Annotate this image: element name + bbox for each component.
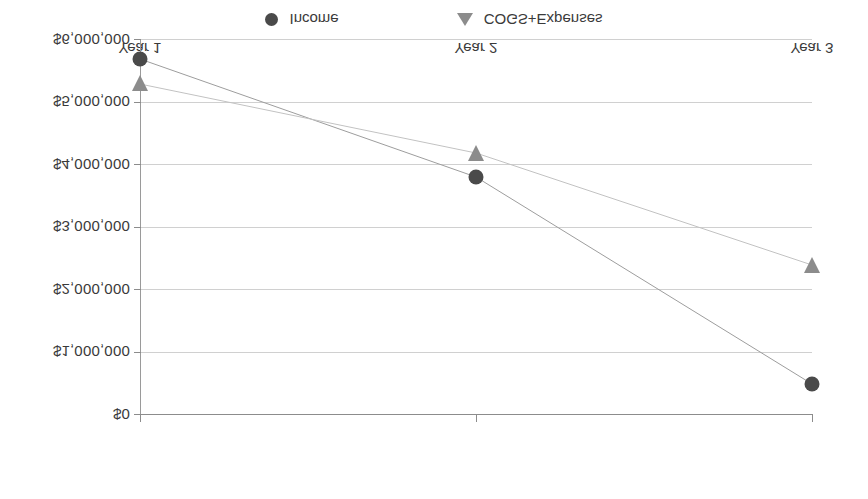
- y-axis-tick-label: $5,000,000: [10, 94, 130, 109]
- data-point-cogs-expenses-year2[interactable]: [468, 145, 484, 161]
- legend-triangle-marker-icon: [457, 13, 473, 26]
- y-axis-tick-label: $2,000,000: [10, 282, 130, 297]
- x-axis-tick: [812, 414, 813, 422]
- x-axis-tick: [476, 414, 477, 422]
- data-point-income-year2[interactable]: [469, 170, 484, 185]
- series-line-income: [140, 59, 812, 384]
- y-axis-tick-label: $1,000,000: [10, 344, 130, 359]
- plot-area: [140, 40, 812, 415]
- data-point-income-year1[interactable]: [133, 52, 148, 67]
- chart-legend: Income COGS+Expenses: [0, 12, 868, 27]
- data-point-income-year3[interactable]: [805, 377, 820, 392]
- legend-item-label: COGS+Expenses: [484, 12, 603, 27]
- legend-item-label: Income: [289, 12, 338, 27]
- line-chart-figure: $6,000,000 $5,000,000 $4,000,000 $3,000,…: [0, 0, 868, 499]
- x-axis-tick: [140, 414, 141, 422]
- y-axis-tick-label: $0: [10, 407, 130, 422]
- legend-item-cogs-expenses[interactable]: COGS+Expenses: [457, 12, 603, 27]
- legend-circle-marker-icon: [265, 13, 278, 26]
- y-axis-tick-label: $4,000,000: [10, 157, 130, 172]
- legend-item-income[interactable]: Income: [265, 12, 338, 27]
- series-layer: [140, 40, 812, 415]
- data-point-cogs-expenses-year1[interactable]: [132, 75, 148, 91]
- y-axis-tick-label: $3,000,000: [10, 219, 130, 234]
- data-point-cogs-expenses-year3[interactable]: [804, 257, 820, 273]
